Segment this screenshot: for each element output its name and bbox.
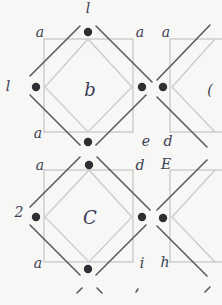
- label-a: a: [136, 25, 144, 39]
- diagonals: [30, 25, 210, 293]
- squares: [44, 39, 222, 262]
- dot: [84, 138, 92, 146]
- dot: [84, 265, 92, 273]
- dot: [159, 214, 167, 222]
- label-E: E: [161, 157, 171, 171]
- dot: [138, 83, 146, 91]
- label-e: e: [142, 134, 150, 148]
- label-a: a: [34, 256, 42, 270]
- dot: [85, 161, 93, 169]
- label-h: h: [160, 255, 169, 269]
- label-d: d: [164, 134, 173, 148]
- dot: [32, 83, 40, 91]
- label-a: a: [34, 126, 42, 140]
- label-2: 2: [15, 205, 24, 219]
- label-i: i: [140, 256, 144, 270]
- label-left-l: l: [6, 79, 10, 93]
- dot: [32, 213, 40, 221]
- dot: [159, 83, 167, 91]
- label-a: a: [36, 25, 44, 39]
- label-partial: (: [207, 83, 212, 97]
- cell-label-c: C: [83, 209, 97, 227]
- dot: [84, 28, 92, 36]
- label-d: d: [136, 158, 145, 172]
- diamonds: [45, 39, 215, 262]
- label-top-l: l: [86, 1, 90, 15]
- cell-label-b: b: [84, 81, 96, 99]
- dot: [138, 213, 146, 221]
- label-a: a: [36, 158, 44, 172]
- label-a: a: [162, 25, 170, 39]
- square-right-bottom: [170, 170, 222, 262]
- vertex-dots: [32, 28, 167, 273]
